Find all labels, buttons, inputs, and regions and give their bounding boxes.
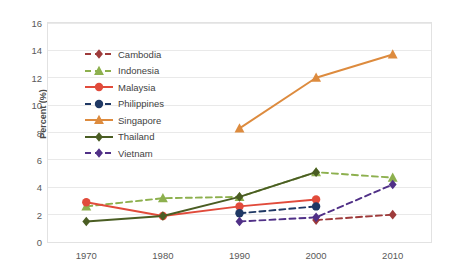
legend-item-indonesia[interactable]: Indonesia [84,63,204,80]
data-point-marker-circle [95,83,103,91]
series-line [240,206,317,213]
legend-label: Cambodia [118,49,161,60]
legend-label: Singapore [118,115,161,126]
legend-marker-icon [84,113,114,127]
legend-item-cambodia[interactable]: Cambodia [84,46,204,63]
data-point-marker-circle [82,198,90,206]
series-line [316,215,393,220]
data-point-marker-diamond [95,49,103,59]
legend-marker-icon [84,97,114,111]
data-point-marker-circle [235,209,243,217]
series-singapore [235,49,398,132]
legend-marker-icon [84,64,114,78]
data-point-marker-diamond [95,148,103,158]
legend-swatch-icon [84,80,114,94]
line-chart: Percent (%) 0246810121416 19701980199020… [0,0,450,276]
legend-swatch-icon [84,64,114,78]
legend-label: Philippines [118,98,164,109]
data-point-marker-diamond [389,210,397,220]
legend-label: Thailand [118,131,154,142]
legend-item-malaysia[interactable]: Malaysia [84,79,204,96]
x-tick-label: 2010 [382,250,403,261]
legend-swatch-icon [84,146,114,160]
x-tick-label: 1990 [229,250,250,261]
legend-item-vietnam[interactable]: Vietnam [84,145,204,162]
legend-label: Vietnam [118,148,153,159]
legend-marker-icon [84,146,114,160]
legend-marker-icon [84,130,114,144]
legend-swatch-icon [84,47,114,61]
data-point-marker-triangle [235,123,245,132]
legend: CambodiaIndonesiaMalaysiaPhilippinesSing… [84,46,204,162]
data-point-marker-diamond [82,217,90,227]
series-malaysia [82,195,320,220]
legend-item-singapore[interactable]: Singapore [84,112,204,129]
data-point-marker-diamond [95,132,103,142]
data-point-marker-circle [95,100,103,108]
legend-marker-icon [84,47,114,61]
x-tick-label: 2000 [306,250,327,261]
data-point-marker-diamond [236,217,244,227]
x-tick-label: 1970 [76,250,97,261]
data-point-marker-diamond [159,211,167,221]
series-philippines [235,202,320,217]
legend-swatch-icon [84,113,114,127]
legend-item-thailand[interactable]: Thailand [84,129,204,146]
data-point-marker-circle [312,202,320,210]
legend-swatch-icon [84,97,114,111]
series-line [240,54,393,128]
legend-label: Malaysia [118,82,156,93]
series-cambodia [312,210,396,225]
x-tick-label: 1980 [152,250,173,261]
legend-swatch-icon [84,130,114,144]
legend-item-philippines[interactable]: Philippines [84,96,204,113]
legend-label: Indonesia [118,65,159,76]
legend-marker-icon [84,80,114,94]
